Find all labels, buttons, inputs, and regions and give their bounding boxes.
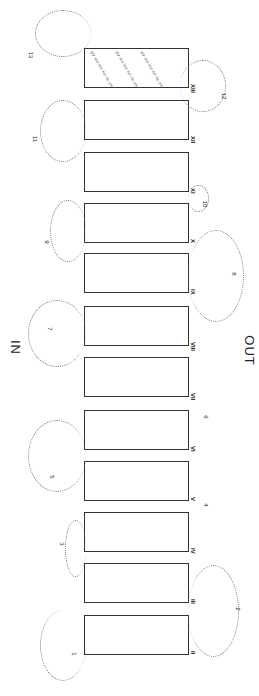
inside-label: IN	[8, 340, 23, 355]
helix-label: VII	[190, 393, 196, 400]
loop-10	[188, 185, 209, 212]
residues: gly·ala·leu·val·ile·phe·ser·thr·asn·gln	[140, 50, 181, 88]
loop-label: 3	[59, 542, 65, 545]
helix-5	[84, 461, 189, 501]
loop-label: 12	[221, 93, 227, 100]
helix-label: II	[190, 651, 196, 654]
loop-13	[35, 10, 91, 57]
loop-label: 10	[202, 201, 208, 208]
helix-label: VIII	[190, 342, 196, 351]
loop-5	[28, 420, 86, 492]
helix-11	[84, 152, 189, 192]
loop-label: 1	[71, 652, 77, 655]
helix-7	[84, 357, 189, 397]
loop-1	[40, 610, 86, 681]
helix-10	[84, 203, 189, 243]
loop-label: 2	[235, 607, 241, 610]
helix-6	[84, 410, 189, 450]
helix-label: IV	[190, 548, 196, 554]
loop-label: 6	[203, 415, 209, 418]
loop-2	[188, 565, 239, 657]
loop-label: 8	[231, 272, 237, 275]
helix-label: X	[190, 239, 196, 243]
helix-residues-holder: gly·ala·leu·val·ile·phe·ser·thr·asn·gln …	[84, 48, 189, 88]
loop-label: 5	[49, 475, 55, 478]
loop-7	[28, 300, 86, 367]
loop-8	[188, 230, 244, 322]
loop-label: 11	[32, 136, 38, 142]
helix-8	[84, 306, 189, 346]
helix-label: XII	[190, 136, 196, 143]
helix-label: VI	[190, 446, 196, 452]
helix-2	[84, 615, 189, 655]
loop-label: 13	[28, 52, 34, 59]
loop-label: 9	[44, 240, 50, 243]
helix-12	[84, 100, 189, 140]
helix-9	[84, 253, 189, 293]
helix-label: V	[190, 497, 196, 501]
outside-label: OUT	[242, 335, 257, 365]
loop-label: 4	[203, 503, 209, 506]
loop-11	[40, 100, 86, 162]
loop-label: 7	[47, 327, 53, 330]
helix-4	[84, 512, 189, 552]
loop-3	[65, 520, 86, 577]
loop-9	[50, 200, 86, 262]
loop-12	[180, 60, 226, 112]
helix-3	[84, 563, 189, 603]
